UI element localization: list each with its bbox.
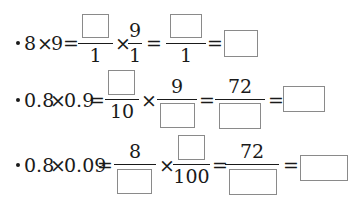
fraction-bar <box>114 164 156 165</box>
answer-input-box[interactable] <box>300 155 348 181</box>
denominator: 10 <box>105 101 139 121</box>
equation-row-3: 0.8 × 0.09 = 8 × 100 = 72 = <box>0 0 356 60</box>
equals-sign: = <box>89 90 105 110</box>
equals-sign: = <box>199 90 215 110</box>
bullet-icon <box>16 98 20 102</box>
numerator: 9 <box>158 76 196 96</box>
numerator-input-box[interactable] <box>108 70 135 95</box>
fraction-bar <box>225 164 279 165</box>
answer-input-box[interactable] <box>283 86 325 112</box>
denominator: 100 <box>171 166 212 186</box>
equals-sign: = <box>268 90 284 110</box>
fraction-bar <box>215 99 265 100</box>
denominator-input-box[interactable] <box>229 169 277 195</box>
denominator-input-box[interactable] <box>160 103 195 128</box>
times-sign: × <box>141 90 157 110</box>
fraction-bar <box>157 99 197 100</box>
denominator-input-box[interactable] <box>219 103 261 129</box>
equals-sign: = <box>97 155 113 175</box>
numerator: 72 <box>216 76 264 96</box>
denominator-input-box[interactable] <box>117 169 152 194</box>
numerator-input-box[interactable] <box>178 135 205 160</box>
bullet-icon <box>16 163 20 167</box>
numerator: 8 <box>115 141 155 161</box>
numerator: 72 <box>226 141 278 161</box>
equals-sign: = <box>283 155 299 175</box>
